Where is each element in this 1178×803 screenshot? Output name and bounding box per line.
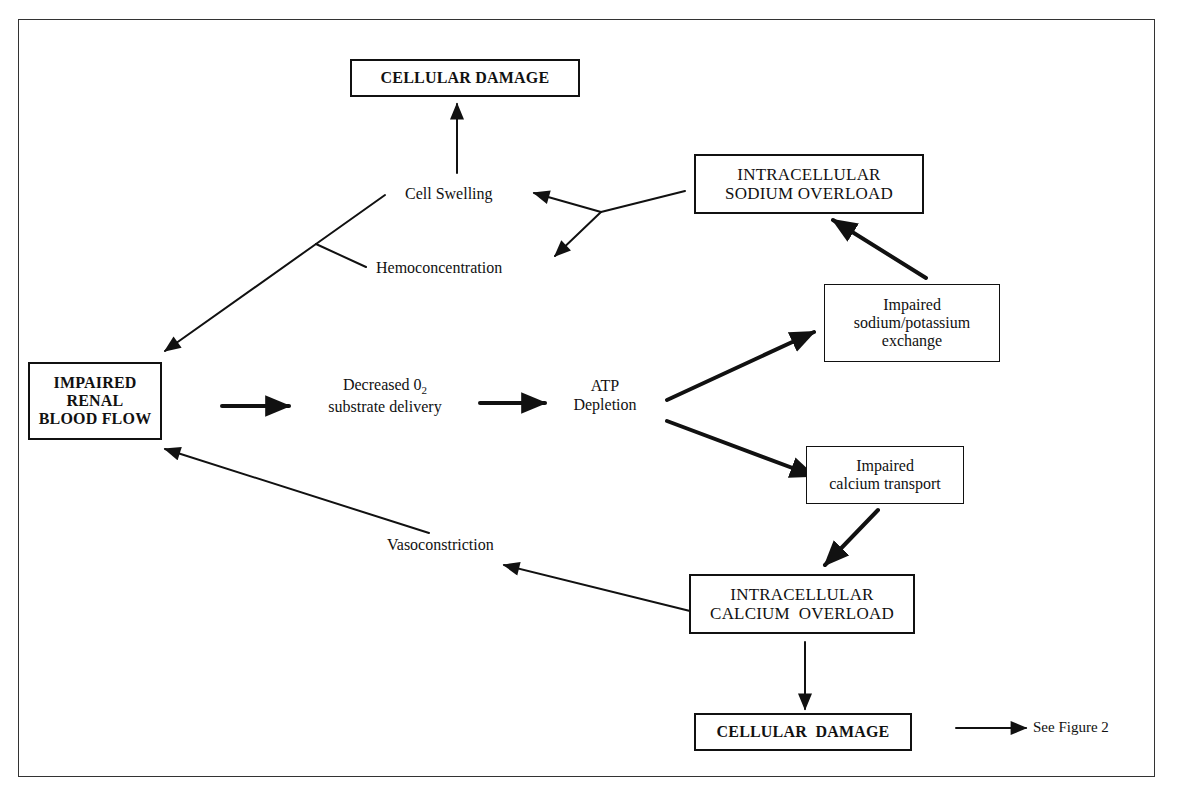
node-calcium-overload: INTRACELLULAR CALCIUM OVERLOAD: [689, 574, 915, 634]
node-decreased-o2: Decreased 02 substrate delivery: [300, 375, 470, 417]
node-label: CELLULAR DAMAGE: [381, 69, 550, 87]
node-impaired-renal-blood-flow: IMPAIRED RENAL BLOOD FLOW: [28, 362, 162, 440]
line-swelling-join: [316, 195, 385, 244]
arrow-vaso-to-renal: [165, 449, 429, 533]
node-sodium-overload: INTRACELLULAR SODIUM OVERLOAD: [694, 154, 924, 214]
node-label: See Figure 2: [1033, 719, 1109, 735]
node-label: BLOOD FLOW: [39, 410, 152, 428]
node-atp-depletion: ATP Depletion: [555, 376, 655, 414]
line-sodium-to-split: [601, 191, 685, 212]
arrow-overload-to-vaso: [504, 565, 690, 611]
node-label: Hemoconcentration: [376, 259, 502, 276]
node-cellular-damage-top: CELLULAR DAMAGE: [350, 59, 580, 97]
node-calcium-transport: Impaired calcium transport: [806, 446, 964, 504]
node-cell-swelling: Cell Swelling: [405, 184, 493, 203]
node-hemoconcentration: Hemoconcentration: [376, 258, 502, 277]
node-label: Impaired: [883, 296, 941, 314]
line-hemo-join: [316, 244, 366, 267]
node-label: ATP: [555, 376, 655, 395]
node-label: Cell Swelling: [405, 185, 493, 202]
node-label: IMPAIRED: [53, 374, 136, 392]
node-label: Vasoconstriction: [387, 536, 494, 553]
node-label: Depletion: [555, 395, 655, 414]
node-label: SODIUM OVERLOAD: [725, 184, 893, 203]
arrow-atp-to-nak: [667, 332, 814, 400]
node-label-line1: Decreased 02: [300, 375, 470, 397]
node-see-figure-2: See Figure 2: [1033, 718, 1109, 736]
arrow-split-to-hemo: [555, 212, 601, 256]
arrow-nak-to-sodium: [833, 220, 926, 278]
node-label: INTRACELLULAR: [737, 165, 880, 184]
node-vasoconstriction: Vasoconstriction: [387, 535, 494, 554]
node-label: calcium transport: [829, 475, 941, 493]
node-na-k-exchange: Impaired sodium/potassium exchange: [824, 284, 1000, 362]
arrow-ca-to-overload: [825, 510, 878, 565]
node-label: sodium/potassium: [854, 314, 970, 332]
node-label: Impaired: [856, 457, 914, 475]
arrow-join-to-renal: [165, 244, 316, 351]
node-label: CALCIUM OVERLOAD: [710, 604, 894, 623]
node-label: CELLULAR DAMAGE: [717, 723, 890, 741]
arrow-split-to-swelling: [534, 193, 601, 212]
node-cellular-damage-bottom: CELLULAR DAMAGE: [694, 713, 912, 751]
arrow-atp-to-ca: [667, 421, 814, 476]
node-label: RENAL: [66, 392, 123, 410]
node-label: INTRACELLULAR: [730, 585, 873, 604]
node-label: exchange: [882, 332, 942, 350]
node-label-line2: substrate delivery: [300, 397, 470, 416]
